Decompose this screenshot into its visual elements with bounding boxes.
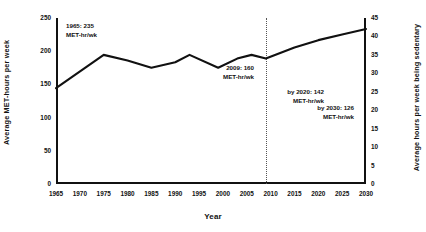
x-tick-2000: 2000 (210, 190, 236, 197)
x-tick-1990: 1990 (162, 190, 188, 197)
y-axis-left-title-text: Average MET-hours per week (3, 40, 12, 145)
annotation-1965-line2: MET-hr/wk (66, 31, 97, 40)
y-tick-right-15: 15 (371, 125, 393, 132)
x-tick-2010: 2010 (258, 190, 284, 197)
y-tick-right-35: 35 (371, 51, 393, 58)
x-tick-1970: 1970 (67, 190, 93, 197)
annotation-2009: 2009: 160 MET-hr/wk (196, 64, 254, 82)
annotation-2030-line2: MET-hr/wk (292, 113, 354, 122)
annotation-2009-line2: MET-hr/wk (196, 73, 254, 82)
x-tick-1980: 1980 (115, 190, 141, 197)
x-tick-2020: 2020 (305, 190, 331, 197)
x-tick-2025: 2025 (329, 190, 355, 197)
x-axis-title: Year (0, 212, 426, 221)
y-tick-right-30: 30 (371, 69, 393, 76)
annotation-2009-line1: 2009: 160 (226, 64, 254, 71)
annotation-2030: by 2030: 126 MET-hr/wk (292, 104, 354, 122)
y-tick-right-20: 20 (371, 106, 393, 113)
annotation-1965-line1: 1965: 235 (66, 22, 94, 29)
y-axis-left-title: Average MET-hours per week (0, 0, 14, 185)
x-tick-1985: 1985 (138, 190, 164, 197)
y-tick-right-40: 40 (371, 32, 393, 39)
y-tick-right-0: 0 (371, 180, 393, 187)
annotation-2020-line1: by 2020: 142 (287, 88, 324, 95)
y-axis-right-title-text: Average hours per week being sedentary (413, 24, 422, 172)
y-tick-right-45: 45 (371, 14, 393, 21)
y-tick-left-100: 100 (29, 114, 51, 121)
x-tick-1975: 1975 (91, 190, 117, 197)
y-tick-right-25: 25 (371, 88, 393, 95)
y-tick-left-150: 150 (29, 80, 51, 87)
y-axis-right-title: Average hours per week being sedentary (410, 0, 424, 195)
y-tick-right-10: 10 (371, 143, 393, 150)
x-tick-2015: 2015 (281, 190, 307, 197)
y-tick-left-250: 250 (29, 14, 51, 21)
y-tick-right-5: 5 (371, 162, 393, 169)
sedentary-trend-chart: Average MET-hours per week Average hours… (0, 0, 426, 232)
x-tick-1995: 1995 (186, 190, 212, 197)
x-tick-1965: 1965 (43, 190, 69, 197)
x-tick-2030: 2030 (353, 190, 379, 197)
y-tick-left-0: 0 (29, 180, 51, 187)
x-tick-2005: 2005 (234, 190, 260, 197)
annotation-1965: 1965: 235 MET-hr/wk (66, 22, 97, 40)
y-tick-left-200: 200 (29, 47, 51, 54)
annotation-2030-line1: by 2030: 126 (317, 104, 354, 111)
y-tick-left-50: 50 (29, 147, 51, 154)
